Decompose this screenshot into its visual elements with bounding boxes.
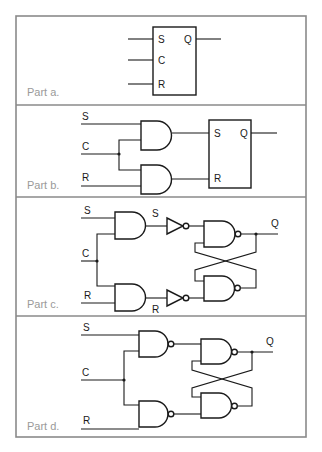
sr-flipflop-figure: S C R Q Part a. S C R S R Q Part b. S C … xyxy=(0,0,322,452)
nand-bubble-bottom-c xyxy=(235,285,241,291)
junction-q-c xyxy=(254,232,257,235)
input-s-label-c: S xyxy=(84,205,91,216)
junction-c-d xyxy=(122,378,125,381)
nand-bubble-input-top-d xyxy=(168,341,174,347)
part-b-label: Part b. xyxy=(27,179,59,191)
nand-gate-latch-top-d xyxy=(201,339,232,364)
input-c-label-d: C xyxy=(82,367,89,378)
panel-a: S C R Q Part a. xyxy=(27,27,221,98)
input-c-label-b: C xyxy=(82,141,89,152)
pin-c-a: C xyxy=(158,55,165,66)
nand-bubble-latch-bottom-d xyxy=(232,403,238,409)
pin-r-b: R xyxy=(214,173,221,184)
part-d-label: Part d. xyxy=(27,420,59,432)
inverter-bubble-top-c xyxy=(183,223,189,229)
pin-q-b: Q xyxy=(240,128,248,139)
input-s-label-d: S xyxy=(83,322,90,333)
part-a-label: Part a. xyxy=(27,86,59,98)
wire-c-split-d xyxy=(124,351,139,405)
nand-gate-input-bottom-d xyxy=(139,401,168,427)
and-gate-bottom-b xyxy=(141,165,172,194)
output-q-label-c: Q xyxy=(271,218,279,229)
pin-q-a: Q xyxy=(184,34,192,45)
panel-b: S C R S R Q Part b. xyxy=(27,111,277,194)
panel-c: S C R S R Q Part c. xyxy=(27,205,279,315)
nand-gate-input-top-d xyxy=(139,331,168,357)
input-r-label-c: R xyxy=(84,290,91,301)
part-c-label: Part c. xyxy=(27,298,59,310)
pin-s-b: S xyxy=(214,128,221,139)
output-q-label-d: Q xyxy=(266,336,274,347)
nand-gate-latch-bottom-d xyxy=(201,393,232,418)
junction-q-d xyxy=(250,350,253,353)
internal-r-label-c: R xyxy=(152,304,159,315)
nand-bubble-top-c xyxy=(235,231,241,237)
internal-s-label-c: S xyxy=(152,208,159,219)
nand-gate-bottom-c xyxy=(204,276,235,301)
pin-s-a: S xyxy=(158,34,165,45)
nand-bubble-input-bottom-d xyxy=(168,411,174,417)
input-s-label-b: S xyxy=(82,111,89,122)
inverter-bubble-bottom-c xyxy=(183,295,189,301)
inverter-top-c xyxy=(167,218,183,234)
and-gate-top-b xyxy=(141,121,172,150)
wire-c-split-b xyxy=(119,140,141,170)
and-gate-top-c xyxy=(115,212,145,239)
nand-gate-top-c xyxy=(204,221,235,247)
junction-c-c xyxy=(95,259,98,262)
input-r-label-d: R xyxy=(83,415,90,426)
and-gate-bottom-c xyxy=(115,284,146,311)
input-r-label-b: R xyxy=(82,172,89,183)
wire-c-split-c xyxy=(97,234,115,286)
inverter-bottom-c xyxy=(167,290,183,306)
nand-bubble-latch-top-d xyxy=(232,349,238,355)
input-c-label-c: C xyxy=(82,248,89,259)
junction-c-b xyxy=(117,152,120,155)
panel-d: S C R Q Part d. xyxy=(27,322,274,432)
pin-r-a: R xyxy=(158,79,165,90)
